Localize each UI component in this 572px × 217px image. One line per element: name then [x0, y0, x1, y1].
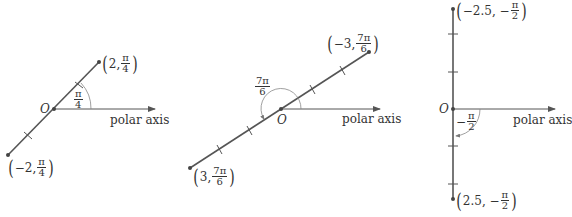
angle-label: 7π6 [254, 76, 271, 97]
diagram-3 [448, 7, 555, 201]
point-label-3-7pi-6: (3, 7π6) [192, 166, 236, 187]
point-label-2.5-neg-pi-2: (2.5, − π2) [455, 190, 518, 211]
point-label-neg2-pi-4: (−2, π4) [7, 157, 55, 178]
origin-label: O [277, 114, 287, 126]
polar-axis-label: polar axis [110, 114, 169, 126]
point-label-neg2.5-neg-pi-2: (−2.5, − π2) [455, 0, 528, 21]
diagram-2 [188, 50, 380, 170]
polar-axis-label: polar axis [513, 114, 572, 126]
angle-label: − π2 [456, 111, 477, 132]
origin-label: O [40, 103, 50, 115]
angle-label: π4 [73, 89, 84, 110]
point-label-2-pi-4: (2, π4) [101, 53, 139, 74]
origin-label: O [439, 103, 449, 115]
point-label-neg3-7pi-6: (−3, 7π6) [326, 33, 380, 54]
polar-axis-label: polar axis [342, 113, 401, 125]
